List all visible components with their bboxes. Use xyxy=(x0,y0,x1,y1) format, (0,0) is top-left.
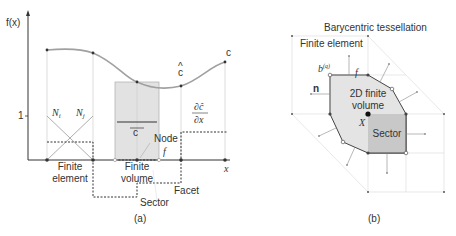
c-hat-caret: ^ xyxy=(178,61,183,72)
c-bar-label: c xyxy=(133,127,138,138)
derivative-numerator: ∂ĉ xyxy=(194,101,204,112)
figure: f(x) 1 x Ni Nj c c ^ c ∂ĉ ∂x Node f xyxy=(0,0,456,236)
caption-a: (a) xyxy=(134,213,146,224)
caption-b: (b) xyxy=(368,213,380,224)
finite-volume-label-2: volume xyxy=(121,173,154,184)
y-axis-arrow-icon xyxy=(26,10,30,16)
shape-fn-j-label: Nj xyxy=(75,107,85,120)
node-label: Node xyxy=(154,133,178,144)
x-node-label: X xyxy=(358,117,366,128)
x-axis-label: x xyxy=(223,163,229,174)
volume-label-2: volume xyxy=(352,100,385,111)
finite-volume-label-1: Finite xyxy=(125,161,150,172)
b-label: b(q) xyxy=(318,63,330,74)
tessellation-title: Barycentric tessellation xyxy=(324,22,427,33)
finite-element-label-2: element xyxy=(52,173,88,184)
curve-nodes xyxy=(46,49,227,88)
y-tick-label: 1 xyxy=(18,110,24,121)
finite-element-label: Finite element xyxy=(300,38,363,49)
derivative-denominator: ∂x xyxy=(194,114,204,125)
volume-label-1: 2D finite xyxy=(350,88,387,99)
c-label: c xyxy=(226,47,231,58)
finite-element-label-1: Finite xyxy=(58,161,83,172)
facet-label: Facet xyxy=(174,185,199,196)
sector-label-b: Sector xyxy=(373,128,403,139)
y-axis-label: f(x) xyxy=(6,17,20,28)
sector-pointer xyxy=(153,170,157,200)
central-node-x xyxy=(365,111,370,116)
panel-b: Barycentric tessellation Finite element xyxy=(291,22,445,224)
shape-fn-i-label: Ni xyxy=(51,107,61,120)
sector-label: Sector xyxy=(140,197,170,208)
facet-symbol: f xyxy=(163,146,167,157)
panel-a: f(x) 1 x Ni Nj c c ^ c ∂ĉ ∂x Node f xyxy=(6,10,231,224)
n-label: n xyxy=(313,83,319,94)
